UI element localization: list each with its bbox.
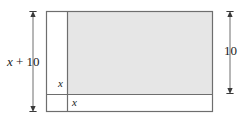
horizontal-strip-height-label: x <box>72 97 77 108</box>
left-dimension-label: x + 10 <box>7 55 40 68</box>
left-dimension-suffix: + 10 <box>13 54 40 69</box>
right-dimension-label: 10 <box>224 44 237 57</box>
shaded-rectangle <box>67 11 213 94</box>
geometry-figure: x + 10 10 x x <box>0 0 247 124</box>
vertical-strip-width-label: x <box>58 78 63 89</box>
